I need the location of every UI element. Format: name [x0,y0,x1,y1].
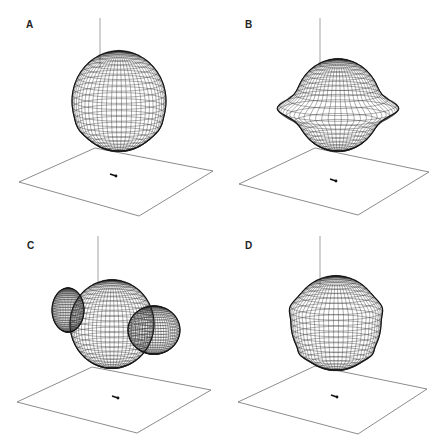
panel-a: A [0,0,223,224]
mesh-surface [277,58,399,151]
panel-c: C [0,224,223,448]
origin-marker [112,396,119,399]
panel-d: D [223,224,446,448]
wireframe-plot-b [223,0,446,224]
mesh-surface [72,50,166,151]
ground-plane [19,148,213,216]
mesh-surface [289,275,382,370]
panel-label: A [26,19,33,30]
wireframe-plot-d [223,224,446,448]
panel-label: C [27,240,34,251]
origin-marker [331,395,338,398]
origin-marker [330,179,337,182]
ground-plane [239,148,429,215]
wireframe-plot-c [0,224,223,448]
wireframe-plot-a [0,0,223,224]
ground-plane [17,367,211,433]
panel-label: B [245,19,252,30]
origin-marker [110,174,117,177]
ground-plane [238,366,427,434]
panel-label: D [245,240,252,251]
panel-b: B [223,0,446,224]
mesh-surface [52,279,180,368]
